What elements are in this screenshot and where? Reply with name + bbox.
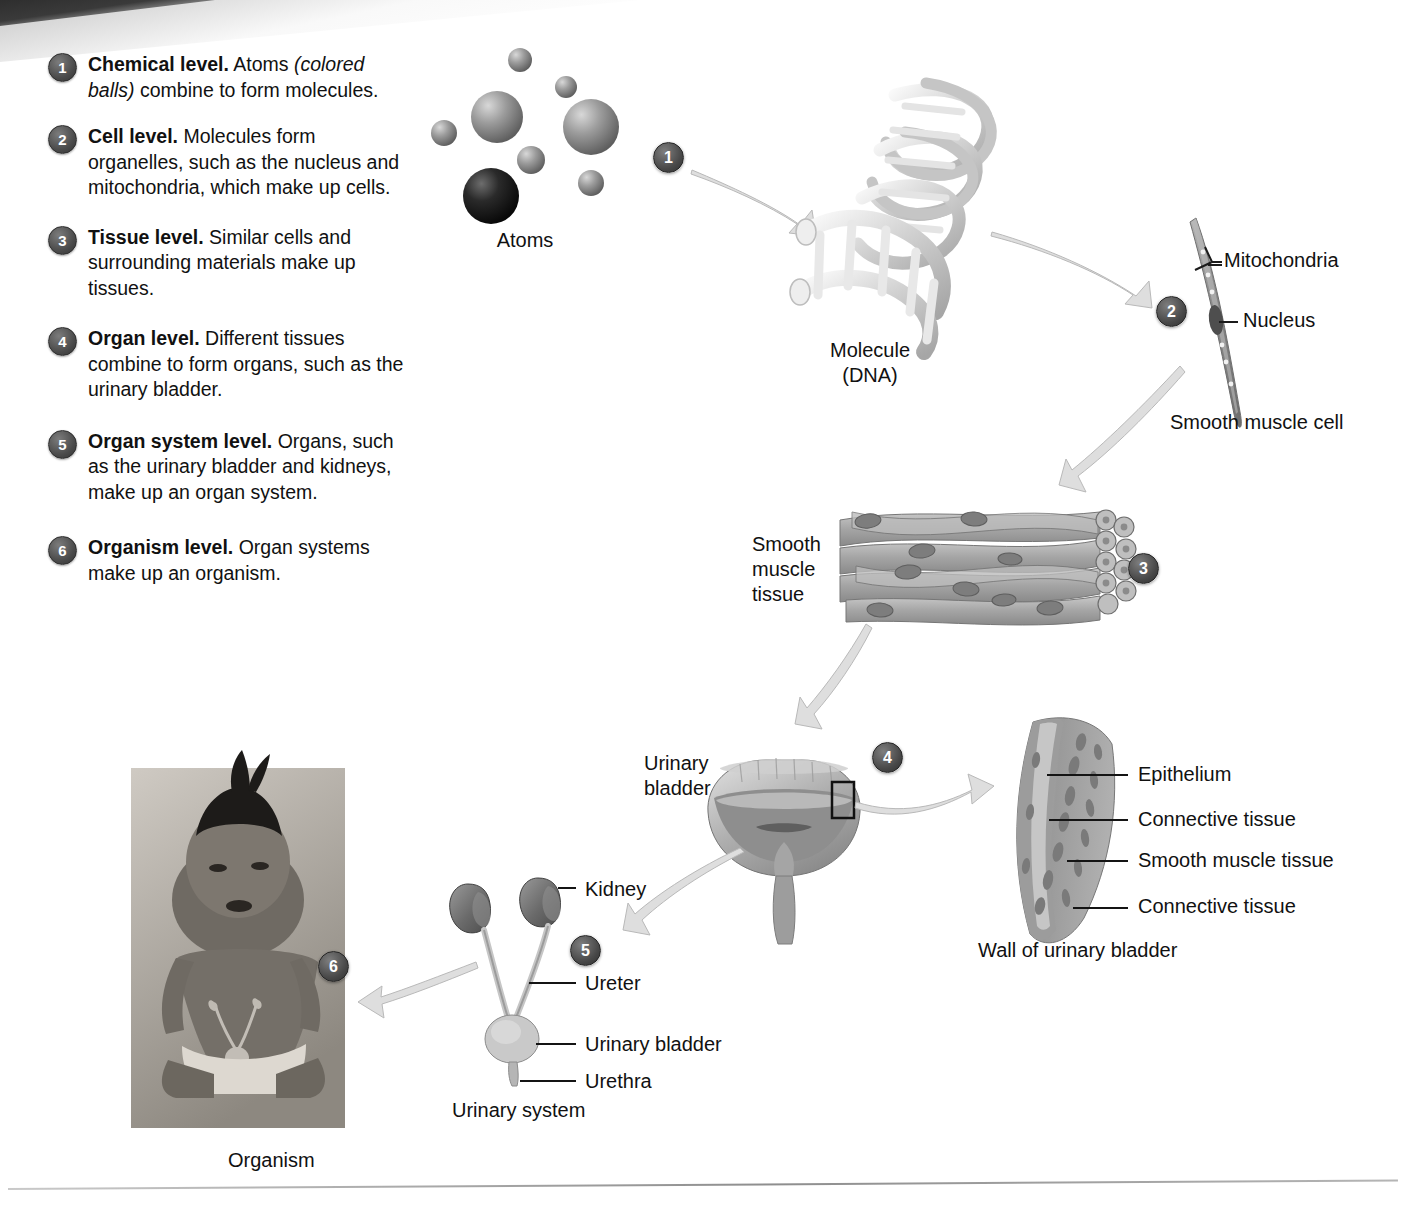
arrow-organ-to-wall-detail <box>855 774 994 814</box>
label-urinary-bladder-system: Urinary bladder <box>585 1032 722 1057</box>
urinary-system-illustration <box>450 878 576 1086</box>
label-smooth-muscle-tissue: Smooth muscle tissue <box>752 532 821 607</box>
diagram-badge-1: 1 <box>653 142 684 173</box>
label-mitochondria: Mitochondria <box>1224 248 1339 273</box>
diagram-badge-6: 6 <box>318 951 349 982</box>
diagram-artwork <box>0 0 1405 1209</box>
dna-molecule-illustration <box>790 83 991 352</box>
diagram-badge-3: 3 <box>1128 553 1159 584</box>
arrow-tissue-to-organ <box>795 624 872 729</box>
label-urethra: Urethra <box>585 1069 652 1094</box>
diagram-badge-2: 2 <box>1156 296 1187 327</box>
label-organism: Organism <box>228 1148 315 1173</box>
label-wall-epithelium: Epithelium <box>1138 762 1231 787</box>
arrow-cell-to-tissue <box>1059 366 1185 492</box>
label-molecule-dna: Molecule (DNA) <box>800 338 940 388</box>
atoms-cluster <box>431 48 619 224</box>
urinary-bladder-illustration <box>708 758 860 944</box>
label-kidney: Kidney <box>585 877 646 902</box>
label-urinary-system: Urinary system <box>452 1098 585 1123</box>
label-wall-of-urinary-bladder: Wall of urinary bladder <box>978 938 1177 963</box>
smooth-muscle-tissue-illustration <box>838 508 1138 625</box>
label-smooth-muscle-cell: Smooth muscle cell <box>1170 410 1343 435</box>
diagram-badge-4: 4 <box>872 742 903 773</box>
label-wall-smooth-muscle-tissue: Smooth muscle tissue <box>1138 848 1334 873</box>
label-wall-connective-tissue-outer: Connective tissue <box>1138 807 1296 832</box>
label-ureter: Ureter <box>585 971 641 996</box>
label-wall-connective-tissue-inner: Connective tissue <box>1138 894 1296 919</box>
label-atoms: Atoms <box>460 228 590 253</box>
label-urinary-bladder-organ: Urinary bladder <box>644 751 711 801</box>
arrow-molecule-to-cell <box>991 232 1152 308</box>
arrow-organ-system-to-organism <box>358 962 478 1018</box>
bladder-wall-cross-section <box>1017 718 1128 943</box>
label-nucleus: Nucleus <box>1243 308 1315 333</box>
organism-photo <box>131 750 345 1128</box>
diagram-badge-5: 5 <box>570 935 601 966</box>
